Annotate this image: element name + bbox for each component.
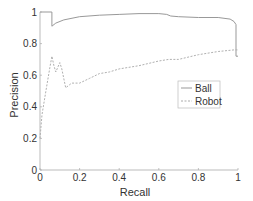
x-tick-label: 0.2 bbox=[73, 172, 87, 183]
x-tick-label: 1 bbox=[235, 172, 241, 183]
y-tick-label: 0 bbox=[31, 165, 37, 176]
series-ball-line bbox=[40, 12, 238, 56]
precision-recall-chart: 00.20.40.60.81 00.20.40.60.81 Recall Pre… bbox=[0, 0, 253, 201]
y-tick-label: 0.2 bbox=[23, 133, 37, 144]
y-axis-label: Precision bbox=[8, 72, 20, 117]
y-tick-label: 0.6 bbox=[23, 70, 37, 81]
y-tick-label: 0.8 bbox=[23, 38, 37, 49]
legend-ball-label: Ball bbox=[195, 83, 212, 94]
y-tick-label: 0.4 bbox=[23, 101, 37, 112]
y-axis-ticks: 00.20.40.60.81 bbox=[23, 7, 42, 176]
x-tick-label: 0.8 bbox=[191, 172, 205, 183]
y-tick-label: 1 bbox=[31, 7, 37, 18]
x-tick-label: 0.4 bbox=[112, 172, 126, 183]
legend-robot-label: Robot bbox=[195, 96, 222, 107]
x-tick-label: 0.6 bbox=[152, 172, 166, 183]
legend: Ball Robot bbox=[178, 81, 222, 108]
x-tick-label: 0 bbox=[37, 172, 43, 183]
x-axis-label: Recall bbox=[120, 186, 151, 198]
